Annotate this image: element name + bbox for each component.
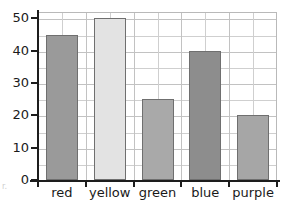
y-axis-tick-label: 30 (3, 76, 29, 89)
y-axis-line (37, 10, 39, 182)
y-axis-tick-labels: 01020304050 (0, 0, 29, 209)
bar-purple[interactable] (237, 115, 269, 180)
y-axis-tick-label: 50 (3, 11, 29, 24)
y-axis-tick-label: 20 (3, 108, 29, 121)
y-axis-tick (31, 114, 38, 116)
y-axis-tick (31, 147, 38, 149)
x-axis-label-blue: blue (181, 186, 229, 199)
x-axis-label-yellow: yellow (86, 186, 134, 199)
y-axis-tick (31, 50, 38, 52)
bar-green[interactable] (142, 99, 174, 180)
y-axis-tick-label: 40 (3, 44, 29, 57)
x-axis-label-red: red (38, 186, 86, 199)
bars-layer (38, 12, 277, 180)
x-axis-label-green: green (134, 186, 182, 199)
x-axis-label-purple: purple (229, 186, 277, 199)
bar-red[interactable] (46, 35, 78, 180)
bar-yellow[interactable] (94, 18, 126, 180)
y-axis-tick (31, 82, 38, 84)
y-axis-tick (31, 17, 38, 19)
bar-blue[interactable] (189, 51, 221, 180)
x-axis-line (30, 180, 280, 182)
bar-chart-figure: 01020304050 redyellowgreenbluepurple r. (0, 0, 285, 209)
page-margin-artifact: r. (2, 183, 7, 191)
y-axis-tick-label: 10 (3, 141, 29, 154)
